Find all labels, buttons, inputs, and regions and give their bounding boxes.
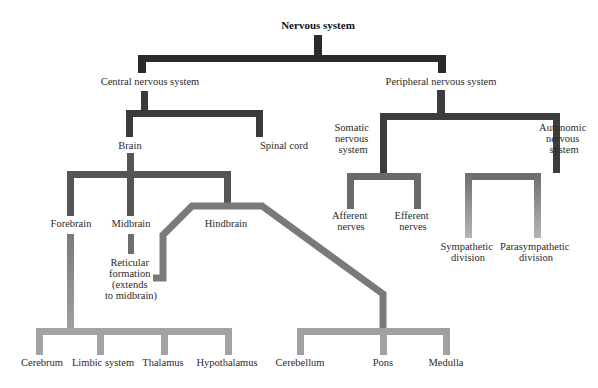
forebrain-connector <box>67 234 74 330</box>
medulla-node-label: Medulla <box>429 357 464 368</box>
somatic-connector <box>347 173 421 209</box>
midbrain-node-label: Midbrain <box>111 218 151 229</box>
hypothalamus-node-label: Hypothalamus <box>196 357 257 368</box>
hindbrain-children-connector <box>297 328 450 355</box>
hindbrain-node-label: Hindbrain <box>205 218 248 229</box>
cerebrum-node-label: Cerebrum <box>21 357 63 368</box>
nervous-system-tree-diagram: Nervous system Central nervous system Pe… <box>0 0 598 388</box>
cerebellum-node-label: Cerebellum <box>276 357 325 368</box>
forebrain-children-connector <box>36 328 232 355</box>
limbic-system-node-label: Limbic system <box>72 357 134 368</box>
somatic-node-label: Somatic nervous system <box>334 122 371 155</box>
cns-node-label: Central nervous system <box>101 76 200 87</box>
root-connector <box>138 35 446 73</box>
midbrain-connector <box>128 234 134 254</box>
spinal-cord-node-label: Spinal cord <box>260 140 309 151</box>
pns-connector <box>380 90 560 173</box>
thalamus-node-label: Thalamus <box>142 357 183 368</box>
pns-node-label: Peripheral nervous system <box>386 76 497 87</box>
parasympathetic-node-label: Parasympathetic division <box>500 241 572 263</box>
forebrain-node-label: Forebrain <box>51 218 93 229</box>
efferent-node-label: Efferent nerves <box>395 210 432 232</box>
cns-connector <box>126 91 263 137</box>
root-node-label: Nervous system <box>281 19 355 31</box>
brain-node-label: Brain <box>118 140 142 151</box>
sympathetic-node-label: Sympathetic division <box>440 241 495 263</box>
autonomic-node-label: Autonomic nervous system <box>539 122 589 155</box>
reticular-formation-node-label: Reticular formation (extends to midbrain… <box>105 257 158 302</box>
autonomic-connector <box>465 173 541 238</box>
pons-node-label: Pons <box>373 357 393 368</box>
afferent-node-label: Afferent nerves <box>332 210 370 232</box>
